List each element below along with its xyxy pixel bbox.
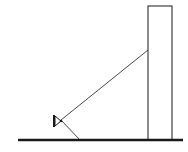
light-source-icon bbox=[54, 115, 62, 127]
diagram-canvas bbox=[0, 0, 188, 152]
light-ray-to-wall bbox=[61, 50, 148, 120]
light-ray-to-ground bbox=[61, 120, 80, 140]
building bbox=[148, 6, 172, 140]
